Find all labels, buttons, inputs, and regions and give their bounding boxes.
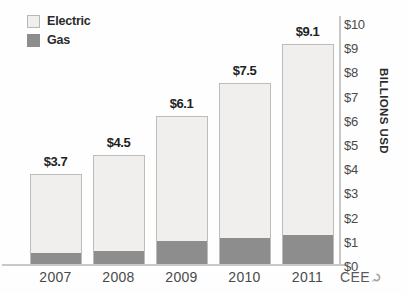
bar-group: $3.7 [30,174,82,264]
bar-segment-electric[interactable] [94,156,144,251]
bar-value-label: $4.5 [107,135,131,150]
stacked-bar[interactable] [93,155,145,264]
bar-segment-gas[interactable] [283,235,333,264]
bar-segment-electric[interactable] [31,175,81,253]
y-tick-label-9: $9 [344,41,358,56]
bar-segment-electric[interactable] [220,84,270,238]
y-tick-label-2: $2 [344,210,358,225]
stacked-bar-chart: Electric Gas $3.7$4.5$6.1$7.5$9.1 200720… [0,0,407,293]
watermark-label: CEE [340,269,370,285]
x-tick-label-2008: 2008 [93,269,145,285]
y-tick-label-3: $3 [344,186,358,201]
bar-group: $9.1 [282,44,334,264]
bar-value-label: $3.7 [44,154,68,169]
y-tick-label-7: $7 [344,89,358,104]
bar-value-label: $6.1 [170,96,194,111]
bar-segment-gas[interactable] [31,253,81,264]
y-tick-label-4: $4 [344,162,358,177]
y-axis-tick-labels: $0$1$2$3$4$5$6$7$8$9$10 [344,0,380,293]
stacked-bar[interactable] [219,83,271,265]
y-tick-label-6: $6 [344,113,358,128]
x-tick-label-2011: 2011 [282,269,334,285]
y-tick-label-8: $8 [344,65,358,80]
bar-segment-gas[interactable] [157,241,207,264]
y-axis-line [339,16,341,266]
x-tick-label-2009: 2009 [156,269,208,285]
bar-segment-gas[interactable] [220,238,270,264]
y-tick-label-10: $10 [344,17,365,32]
bar-segment-gas[interactable] [94,251,144,264]
y-tick-label-5: $5 [344,138,358,153]
plot-area: $3.7$4.5$6.1$7.5$9.1 [24,18,339,266]
y-axis-title: BILLIONS USD [378,68,390,154]
bar-value-label: $9.1 [296,24,320,39]
bar-group: $7.5 [219,83,271,265]
bar-group: $4.5 [93,155,145,264]
stacked-bar[interactable] [282,44,334,264]
cee-logo-mark-icon [372,273,381,282]
x-axis-tick-labels: 20072008200920102011 [24,269,339,291]
bar-segment-electric[interactable] [157,117,207,241]
bar-group: $6.1 [156,116,208,264]
x-axis-line [2,264,347,266]
bar-segment-electric[interactable] [283,45,333,235]
cee-watermark: CEE [340,269,381,285]
x-tick-label-2010: 2010 [219,269,271,285]
stacked-bar[interactable] [30,174,82,264]
y-tick-label-1: $1 [344,234,358,249]
bar-value-label: $7.5 [233,63,257,78]
stacked-bar[interactable] [156,116,208,264]
x-tick-label-2007: 2007 [30,269,82,285]
